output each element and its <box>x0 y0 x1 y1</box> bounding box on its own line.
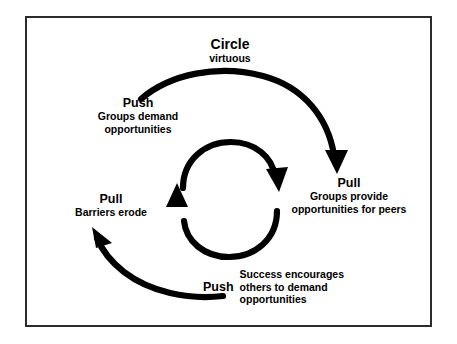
virtuous-circle-figure: Circle virtuous Push Groups demand oppor… <box>0 0 457 344</box>
stage-line-3: opportunities <box>240 293 344 306</box>
title-main: Circle <box>170 36 290 52</box>
stage-kind-pull: Pull <box>58 192 164 206</box>
stage-label-push-success: Push Success encourages others to demand… <box>203 268 373 306</box>
diagram-title: Circle virtuous <box>170 36 290 65</box>
stage-line-1: Groups demand <box>78 110 198 123</box>
stage-kind-pull: Pull <box>279 176 419 190</box>
stage-kind-push: Push <box>78 96 198 110</box>
stage-line-2: opportunities <box>78 123 198 136</box>
title-sub: virtuous <box>170 52 290 65</box>
stage-kind-push: Push <box>203 280 234 294</box>
stage-label-pull-barriers: Pull Barriers erode <box>58 192 164 219</box>
stage-label-pull-provide: Pull Groups provide opportunities for pe… <box>279 176 419 215</box>
stage-text-block: Success encourages others to demand oppo… <box>240 268 344 306</box>
stage-line-1: Success encourages <box>240 268 344 281</box>
stage-line-2: opportunities for peers <box>279 203 419 216</box>
stage-line-1: Barriers erode <box>58 206 164 219</box>
stage-label-push-demand: Push Groups demand opportunities <box>78 96 198 135</box>
stage-line-1: Groups provide <box>279 190 419 203</box>
stage-line-2: others to demand <box>240 281 344 294</box>
